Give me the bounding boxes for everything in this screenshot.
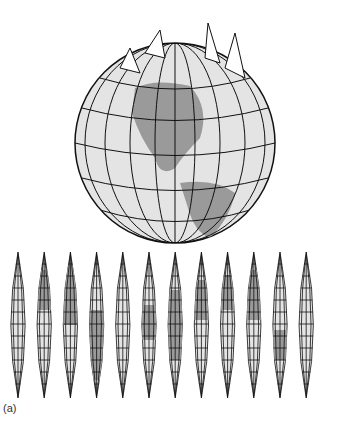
figure-label: (a) — [3, 402, 16, 414]
gores-illustration — [0, 250, 348, 400]
globe-illustration — [60, 18, 290, 248]
